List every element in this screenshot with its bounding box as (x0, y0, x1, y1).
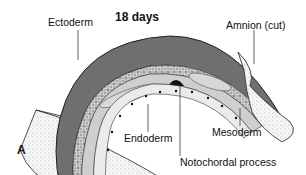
label-amnion: Amnion (cut) (226, 20, 286, 31)
label-notochordal-process: Notochordal process (180, 157, 276, 168)
label-endoderm: Endoderm (124, 133, 172, 144)
panel-letter: A (17, 144, 26, 156)
label-mesoderm: Mesoderm (212, 127, 262, 138)
diagram-title: 18 days (115, 11, 159, 23)
label-ectoderm: Ectoderm (48, 17, 93, 28)
